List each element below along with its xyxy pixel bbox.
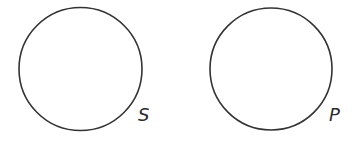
circle-s (19, 8, 142, 131)
circle-p (210, 8, 332, 130)
circle-p-label: P (329, 106, 340, 124)
diagram-canvas (0, 0, 352, 141)
circle-s-label: S (138, 106, 149, 124)
